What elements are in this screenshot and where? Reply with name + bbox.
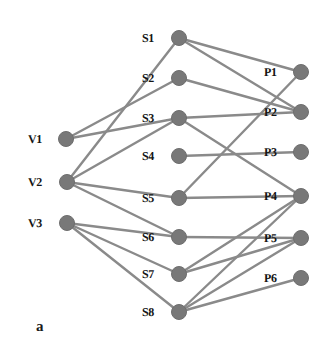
node-label-s1: S1 [142, 32, 154, 44]
node-label-v3: V3 [28, 217, 42, 229]
node-label-s3: S3 [142, 112, 154, 124]
graph-node-s8[interactable] [172, 305, 187, 320]
graph-edge [179, 238, 301, 312]
graph-canvas [0, 0, 329, 358]
graph-node-p5[interactable] [294, 231, 309, 246]
figure-panel-a: V1V2V3S1S2S3S4S5S6S7S8P1P2P3P4P5P6 a [0, 0, 329, 358]
graph-node-s1[interactable] [172, 31, 187, 46]
node-label-p1: P1 [264, 66, 277, 78]
graph-node-s2[interactable] [172, 71, 187, 86]
graph-node-s4[interactable] [172, 149, 187, 164]
graph-edge [179, 118, 301, 196]
graph-edge [179, 152, 301, 156]
graph-edge [179, 196, 301, 274]
node-label-p4: P4 [264, 190, 277, 202]
graph-node-p1[interactable] [294, 65, 309, 80]
graph-node-s7[interactable] [172, 267, 187, 282]
node-label-p2: P2 [264, 106, 277, 118]
graph-edge [67, 38, 179, 182]
graph-edge [66, 78, 179, 139]
panel-caption: a [36, 318, 44, 335]
node-label-s2: S2 [142, 72, 154, 84]
node-label-v1: V1 [28, 133, 42, 145]
graph-node-p6[interactable] [294, 271, 309, 286]
graph-node-v3[interactable] [60, 216, 75, 231]
graph-edge [179, 237, 301, 238]
node-label-s7: S7 [142, 268, 154, 280]
graph-edge [179, 78, 301, 112]
graph-node-s5[interactable] [172, 191, 187, 206]
node-label-p5: P5 [264, 232, 277, 244]
graph-edge [179, 38, 301, 72]
graph-node-p2[interactable] [294, 105, 309, 120]
graph-node-v2[interactable] [60, 175, 75, 190]
graph-edge [179, 112, 301, 118]
graph-node-p3[interactable] [294, 145, 309, 160]
node-label-v2: V2 [28, 176, 42, 188]
node-label-s8: S8 [142, 306, 154, 318]
graph-edge [179, 72, 301, 198]
graph-edge [179, 38, 301, 112]
graph-node-p4[interactable] [294, 189, 309, 204]
node-label-s4: S4 [142, 150, 154, 162]
graph-edge [179, 196, 301, 198]
graph-node-s3[interactable] [172, 111, 187, 126]
graph-edge [179, 238, 301, 274]
node-label-p3: P3 [264, 146, 277, 158]
graph-node-v1[interactable] [59, 132, 74, 147]
node-label-s5: S5 [142, 192, 154, 204]
node-label-s6: S6 [142, 231, 154, 243]
graph-node-s6[interactable] [172, 230, 187, 245]
node-label-p6: P6 [264, 272, 277, 284]
